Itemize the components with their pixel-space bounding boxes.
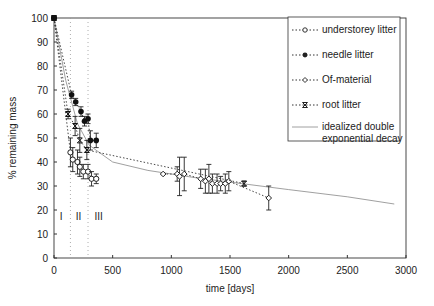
legend-label: understorey litter	[322, 24, 397, 35]
decay-chart: 0500100015002000250030000102030405060708…	[0, 0, 434, 306]
open-circle-icon	[303, 28, 307, 32]
x-axis-label: time [days]	[206, 283, 255, 294]
x-tick-label: 1500	[219, 265, 242, 276]
y-tick-label: 20	[37, 205, 49, 216]
legend-label: needle litter	[322, 49, 374, 60]
y-tick-label: 70	[37, 85, 49, 96]
filled-circle-marker	[69, 92, 75, 98]
series-root-litter	[52, 16, 247, 187]
y-tick-label: 100	[31, 13, 48, 24]
x-tick-label: 500	[104, 265, 121, 276]
y-tick-label: 90	[37, 37, 49, 48]
y-tick-label: 30	[37, 181, 49, 192]
open-diamond-marker	[266, 195, 272, 201]
legend: understorey litter needle litter Of-mate…	[288, 17, 403, 144]
series-line	[54, 18, 244, 184]
legend-label: root litter	[322, 99, 362, 110]
open-circle-marker	[94, 176, 99, 181]
x-tick-label: 3000	[395, 265, 418, 276]
data-series	[51, 15, 272, 210]
filled-circle-icon	[303, 53, 308, 58]
x-tick-label: 2500	[336, 265, 359, 276]
filled-circle-marker	[93, 138, 99, 144]
x-tick-label: 1000	[160, 265, 183, 276]
y-tick-label: 50	[37, 133, 49, 144]
legend-label: Of-material	[322, 74, 371, 85]
x-tick-label: 2000	[278, 265, 301, 276]
series-of-material	[160, 157, 271, 210]
open-circle-marker	[68, 150, 73, 155]
y-tick-label: 60	[37, 109, 49, 120]
y-tick-label: 40	[37, 157, 49, 168]
origin-marker	[51, 15, 57, 21]
legend-label-line2: exponential decay	[322, 133, 403, 144]
y-axis-label: % remaining mass	[7, 97, 18, 179]
phase-label: I	[60, 211, 63, 222]
filled-circle-marker	[78, 109, 84, 115]
y-tick-label: 10	[37, 229, 49, 240]
filled-circle-marker	[73, 99, 79, 105]
x-tick-label: 0	[51, 265, 57, 276]
legend-label: idealized double	[322, 121, 395, 132]
y-tick-label: 0	[42, 253, 48, 264]
y-tick-label: 80	[37, 61, 49, 72]
filled-circle-marker	[85, 116, 91, 122]
phase-label: III	[94, 211, 102, 222]
open-circle-marker	[77, 164, 82, 169]
phase-label: II	[76, 211, 82, 222]
